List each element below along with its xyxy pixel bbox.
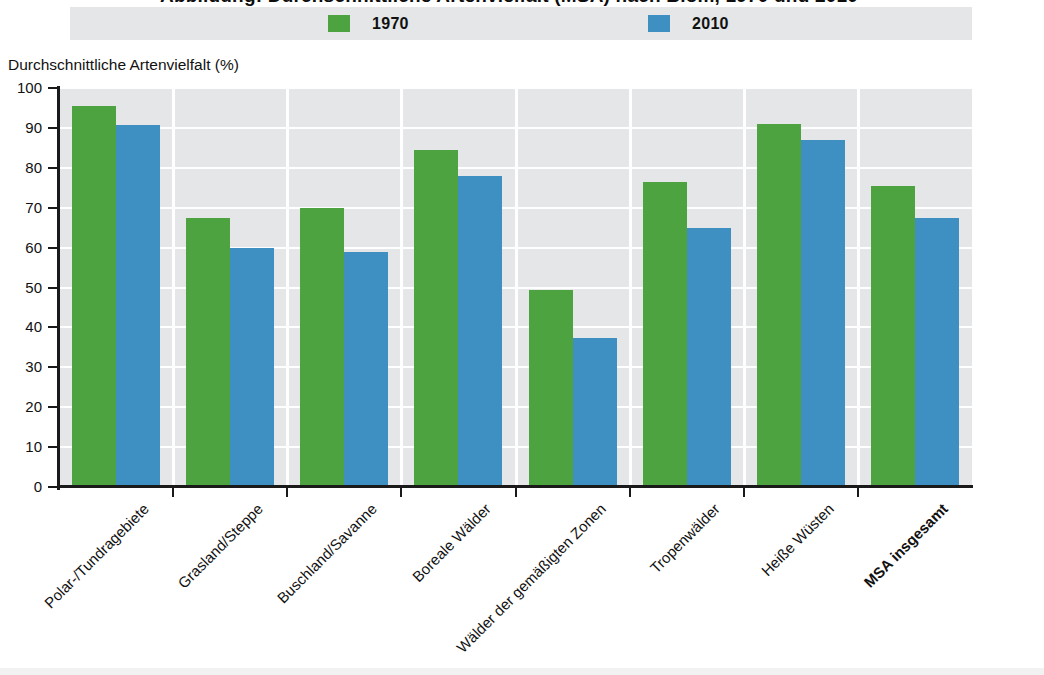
bar-1970-4	[529, 290, 573, 488]
plot-area	[59, 88, 972, 487]
bar-1970-2	[300, 208, 344, 487]
gridline-vertical	[172, 88, 175, 487]
y-tick-mark	[48, 247, 58, 249]
legend-item-1970[interactable]: 1970	[328, 15, 409, 33]
x-tick-mark	[400, 488, 402, 497]
y-tick-label: 100	[4, 79, 42, 96]
bar-1970-3	[414, 150, 458, 487]
y-axis-title: Durchschnittliche Artenvielfalt (%)	[8, 56, 239, 74]
y-tick-label: 0	[4, 478, 42, 495]
y-tick-label: 90	[4, 119, 42, 136]
chart-legend: 1970 2010	[70, 7, 972, 40]
chart-title-strip: Abbildung: Durchschnittliche Artenvielfa…	[0, 0, 1044, 7]
gridline-vertical	[286, 88, 289, 487]
bar-2010-0	[116, 125, 160, 487]
bar-1970-7	[871, 186, 915, 487]
bar-2010-2	[344, 252, 388, 487]
legend-swatch-1970	[328, 15, 350, 32]
y-tick-mark	[48, 167, 58, 169]
gridline-vertical	[743, 88, 746, 487]
gridline-vertical	[400, 88, 403, 487]
y-tick-mark	[48, 446, 58, 448]
x-tick-mark	[286, 488, 288, 497]
y-tick-label: 20	[4, 398, 42, 415]
gridline-vertical	[515, 88, 518, 487]
bar-2010-1	[230, 248, 274, 487]
y-tick-mark	[48, 326, 58, 328]
y-tick-label: 40	[4, 318, 42, 335]
bar-1970-6	[757, 124, 801, 487]
x-tick-mark	[172, 488, 174, 497]
page-bottom-edge	[0, 668, 1044, 675]
y-tick-label: 10	[4, 438, 42, 455]
bar-2010-7	[915, 218, 959, 487]
legend-swatch-2010	[648, 15, 670, 32]
y-tick-mark	[48, 207, 58, 209]
y-tick-label: 60	[4, 239, 42, 256]
bar-2010-6	[801, 140, 845, 487]
chart-title: Abbildung: Durchschnittliche Artenvielfa…	[160, 0, 858, 7]
bar-1970-5	[643, 182, 687, 487]
y-tick-mark	[48, 127, 58, 129]
x-tick-mark	[743, 488, 745, 497]
legend-label-1970: 1970	[372, 15, 409, 33]
y-tick-label: 50	[4, 279, 42, 296]
legend-item-2010[interactable]: 2010	[648, 15, 729, 33]
bar-1970-1	[186, 218, 230, 487]
y-tick-mark	[48, 366, 58, 368]
y-tick-mark	[48, 406, 58, 408]
gridline-vertical	[857, 88, 860, 487]
legend-label-2010: 2010	[692, 15, 729, 33]
bar-2010-4	[573, 338, 617, 487]
gridline-vertical	[629, 88, 632, 487]
bar-2010-5	[687, 228, 731, 487]
y-tick-label: 30	[4, 358, 42, 375]
x-tick-mark	[629, 488, 631, 497]
bar-1970-0	[72, 106, 116, 487]
y-tick-label: 80	[4, 159, 42, 176]
y-tick-mark	[48, 87, 58, 89]
y-tick-mark	[48, 287, 58, 289]
y-tick-label: 70	[4, 199, 42, 216]
x-tick-mark	[857, 488, 859, 497]
x-tick-mark	[515, 488, 517, 497]
y-tick-mark	[48, 486, 58, 488]
bar-2010-3	[458, 176, 502, 487]
